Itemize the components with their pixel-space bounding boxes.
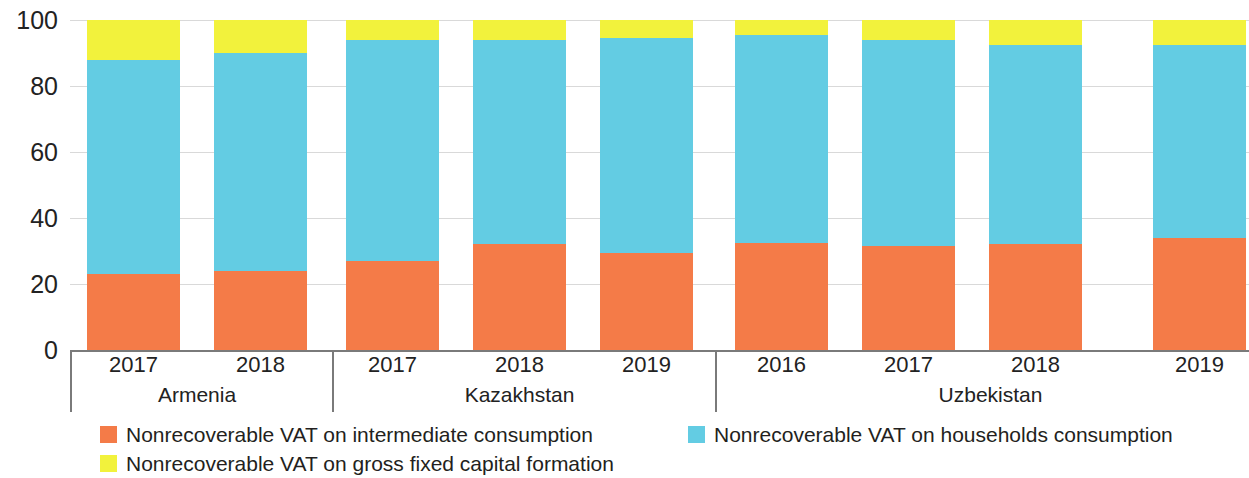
y-tick-label-40: 40 (0, 206, 58, 231)
bar-segment-gfcf (214, 20, 307, 53)
bar-segment-households (989, 45, 1082, 245)
plot-area (70, 20, 1249, 350)
group-label-uzbekistan: Uzbekistan (735, 384, 1246, 405)
bar-segment-gfcf (600, 20, 693, 38)
bar-uzbekistan-2016[interactable] (735, 20, 828, 350)
legend-label: Nonrecoverable VAT on intermediate consu… (126, 424, 593, 445)
bar-segment-gfcf (473, 20, 566, 40)
x-tick-label-kazakhstan-2018: 2018 (473, 354, 566, 376)
bar-segment-intermediate (346, 261, 439, 350)
x-tick-label-uzbekistan-2018: 2018 (989, 354, 1082, 376)
x-tick-label-armenia-2018: 2018 (214, 354, 307, 376)
bar-segment-gfcf (862, 20, 955, 40)
bar-segment-intermediate (473, 244, 566, 350)
bar-segment-gfcf (735, 20, 828, 35)
x-tick-label-uzbekistan-2017: 2017 (862, 354, 955, 376)
bar-segment-gfcf (346, 20, 439, 40)
bar-segment-intermediate (600, 253, 693, 350)
bar-segment-households (600, 38, 693, 253)
y-tick-label-20: 20 (0, 272, 58, 297)
bar-segment-households (735, 35, 828, 243)
bar-segment-intermediate (1153, 238, 1246, 350)
bar-uzbekistan-2018[interactable] (989, 20, 1082, 350)
bar-segment-intermediate (87, 274, 180, 350)
bar-segment-households (862, 40, 955, 246)
legend-swatch-orange (100, 426, 117, 443)
group-separator-1 (715, 350, 717, 412)
x-tick-label-uzbekistan-2019: 2019 (1153, 354, 1246, 376)
legend-label: Nonrecoverable VAT on gross fixed capita… (126, 453, 614, 474)
x-tick-label-armenia-2017: 2017 (87, 354, 180, 376)
bar-armenia-2018[interactable] (214, 20, 307, 350)
bar-segment-intermediate (989, 244, 1082, 350)
bar-segment-households (473, 40, 566, 245)
bar-segment-intermediate (862, 246, 955, 350)
bar-segment-households (87, 60, 180, 275)
bar-kazakhstan-2019[interactable] (600, 20, 693, 350)
legend-item-gross-fixed-capital-formation[interactable]: Nonrecoverable VAT on gross fixed capita… (100, 453, 614, 474)
bar-segment-households (346, 40, 439, 261)
bar-segment-intermediate (735, 243, 828, 350)
group-label-kazakhstan: Kazakhstan (346, 384, 693, 405)
bar-segment-households (1153, 45, 1246, 238)
x-tick-label-uzbekistan-2016: 2016 (735, 354, 828, 376)
bar-segment-gfcf (87, 20, 180, 60)
axis-band-left-edge (70, 350, 72, 412)
bar-uzbekistan-2017[interactable] (862, 20, 955, 350)
x-tick-label-kazakhstan-2017: 2017 (346, 354, 439, 376)
bar-segment-gfcf (1153, 20, 1246, 45)
legend-swatch-blue (688, 426, 705, 443)
stacked-bar-chart: 020406080100 201720182017201820192016201… (0, 0, 1249, 478)
bar-armenia-2017[interactable] (87, 20, 180, 350)
bar-segment-intermediate (214, 271, 307, 350)
group-label-armenia: Armenia (87, 384, 307, 405)
y-tick-label-60: 60 (0, 140, 58, 165)
bar-segment-households (214, 53, 307, 271)
bar-segment-gfcf (989, 20, 1082, 45)
legend-swatch-yellow (100, 455, 117, 472)
legend-label: Nonrecoverable VAT on households consump… (714, 424, 1173, 445)
group-separator-0 (332, 350, 334, 412)
legend-item-intermediate-consumption[interactable]: Nonrecoverable VAT on intermediate consu… (100, 424, 593, 445)
legend-item-households-consumption[interactable]: Nonrecoverable VAT on households consump… (688, 424, 1173, 445)
x-axis: 201720182017201820192016201720182019Arme… (70, 350, 1249, 412)
y-tick-label-0: 0 (0, 338, 58, 363)
bar-kazakhstan-2017[interactable] (346, 20, 439, 350)
bar-uzbekistan-2019[interactable] (1153, 20, 1246, 350)
y-tick-label-80: 80 (0, 74, 58, 99)
x-tick-label-kazakhstan-2019: 2019 (600, 354, 693, 376)
chart-legend: Nonrecoverable VAT on intermediate consu… (100, 424, 1240, 478)
bar-kazakhstan-2018[interactable] (473, 20, 566, 350)
y-tick-label-100: 100 (0, 8, 58, 33)
